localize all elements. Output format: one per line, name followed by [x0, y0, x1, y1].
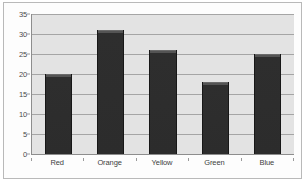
y-axis-tick-label: 25	[19, 50, 27, 59]
bar-slot	[137, 14, 189, 154]
x-axis-tick-mark	[188, 158, 189, 161]
y-axis-tick-mark	[27, 14, 30, 15]
bar[interactable]	[97, 30, 124, 154]
y-axis-tick-mark	[27, 114, 30, 115]
x-axis-category-label: Blue	[241, 158, 293, 174]
bar-slot	[84, 14, 136, 154]
bar-slot	[32, 14, 84, 154]
x-axis: RedOrangeYellowGreenBlue	[31, 158, 293, 174]
plot-area	[31, 14, 294, 155]
y-axis-tick-label: 20	[19, 70, 27, 79]
x-axis-category-label: Orange	[83, 158, 135, 174]
y-axis-tick-label: 15	[19, 90, 27, 99]
bar-slot	[189, 14, 241, 154]
bar[interactable]	[45, 74, 72, 154]
bar[interactable]	[254, 54, 281, 154]
bar[interactable]	[202, 82, 229, 154]
x-axis-tick-mark	[31, 158, 32, 161]
y-axis-tick-mark	[27, 134, 30, 135]
y-axis-tick-label: 35	[19, 10, 27, 19]
y-axis-tick-mark	[27, 154, 30, 155]
y-axis-tick-mark	[27, 54, 30, 55]
y-axis: 05101520253035	[4, 3, 30, 178]
x-axis-tick-mark	[241, 158, 242, 161]
bar-slot	[242, 14, 294, 154]
y-axis-tick-label: 10	[19, 110, 27, 119]
x-axis-category-label: Yellow	[136, 158, 188, 174]
chart-frame: 05101520253035 RedOrangeYellowGreenBlue	[3, 2, 302, 179]
x-axis-tick-mark	[293, 158, 294, 161]
y-axis-tick-mark	[27, 74, 30, 75]
x-axis-tick-mark	[136, 158, 137, 161]
bar[interactable]	[149, 50, 176, 154]
bars-group	[32, 14, 294, 154]
y-axis-tick-mark	[27, 34, 30, 35]
x-axis-tick-mark	[83, 158, 84, 161]
x-axis-category-label: Red	[31, 158, 83, 174]
y-axis-tick-mark	[27, 94, 30, 95]
y-axis-tick-label: 30	[19, 30, 27, 39]
x-axis-category-label: Green	[188, 158, 240, 174]
